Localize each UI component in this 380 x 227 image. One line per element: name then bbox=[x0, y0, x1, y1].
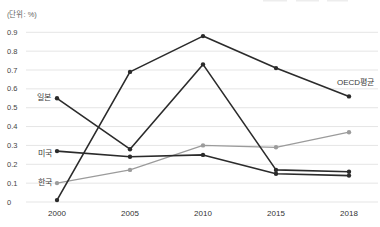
y-tick-label: 0.6 bbox=[7, 84, 17, 93]
y-tick-label: 0.3 bbox=[7, 141, 17, 150]
data-point-korea-2015 bbox=[274, 145, 278, 149]
y-tick-label: 0.2 bbox=[7, 160, 17, 169]
data-point-oecd-avg-2018 bbox=[347, 94, 351, 98]
series-label-japan: 일본 bbox=[18, 93, 51, 102]
data-point-usa-2000 bbox=[55, 149, 59, 153]
series-label-usa: 미국 bbox=[18, 149, 52, 158]
y-tick-label: 0.7 bbox=[7, 66, 17, 75]
data-point-japan-2018 bbox=[347, 170, 351, 174]
series-line-korea bbox=[57, 132, 349, 183]
data-point-korea-2000 bbox=[55, 181, 59, 185]
data-point-korea-2005 bbox=[128, 168, 132, 172]
cropped-text-artifact bbox=[327, 0, 348, 2]
data-point-usa-2015 bbox=[274, 172, 278, 176]
data-point-korea-2018 bbox=[347, 130, 351, 134]
data-point-japan-2015 bbox=[274, 168, 278, 172]
chart-canvas: 0.90.80.70.60.50.40.30.20.10200020052010… bbox=[0, 0, 380, 227]
y-tick-label: 0.4 bbox=[7, 122, 17, 131]
x-tick-label: 2010 bbox=[194, 209, 212, 218]
y-tick-label: 0.9 bbox=[7, 28, 17, 37]
data-point-oecd-avg-2010 bbox=[201, 34, 205, 38]
data-point-oecd-avg-2000 bbox=[55, 198, 59, 202]
series-label-oecd-avg: OECD평균 bbox=[337, 78, 374, 87]
data-point-usa-2010 bbox=[201, 153, 205, 157]
line-chart-figure: 0.90.80.70.60.50.40.30.20.10200020052010… bbox=[0, 0, 380, 227]
x-tick-label: 2000 bbox=[48, 209, 66, 218]
y-tick-label: 0.1 bbox=[7, 179, 17, 188]
y-tick-label: 0 bbox=[7, 198, 11, 207]
y-tick-label: 0.8 bbox=[7, 47, 17, 56]
data-point-japan-2005 bbox=[128, 147, 132, 151]
data-point-usa-2018 bbox=[347, 173, 351, 177]
data-point-japan-2010 bbox=[201, 62, 205, 66]
x-tick-label: 2015 bbox=[267, 209, 285, 218]
data-point-oecd-avg-2015 bbox=[274, 66, 278, 70]
cropped-text-artifact bbox=[296, 0, 319, 2]
data-point-oecd-avg-2005 bbox=[128, 70, 132, 74]
data-point-usa-2005 bbox=[128, 155, 132, 159]
data-point-korea-2010 bbox=[201, 143, 205, 147]
y-tick-label: 0.5 bbox=[7, 103, 17, 112]
data-point-japan-2000 bbox=[55, 96, 59, 100]
cropped-text-artifact bbox=[263, 0, 287, 2]
unit-label: (단위: %) bbox=[7, 8, 37, 19]
x-tick-label: 2018 bbox=[340, 209, 358, 218]
series-label-korea: 한국 bbox=[18, 178, 52, 187]
x-tick-label: 2005 bbox=[121, 209, 139, 218]
